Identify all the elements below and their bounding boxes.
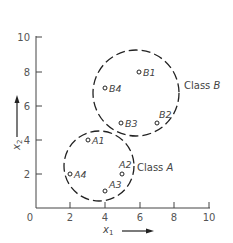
y-tick-label: 4 [24, 135, 30, 146]
point-a1-label: A1 [91, 135, 105, 146]
point-a4-label: A4 [73, 169, 87, 180]
x-tick-label: 2 [67, 212, 73, 223]
class-b-label: Class B [184, 80, 221, 91]
x-axis-label: x1 [102, 224, 113, 237]
y-tick-label: 8 [24, 67, 30, 78]
x-tick-label: 4 [102, 212, 108, 223]
point-a3-marker [103, 189, 107, 193]
point-a4-marker [68, 172, 72, 176]
y-tick-label: 2 [24, 169, 30, 180]
point-a3-label: A3 [108, 179, 122, 190]
x-tick-label: 0 [27, 212, 33, 223]
x-tick-label: 6 [137, 212, 143, 223]
class-scatter-diagram: 10 8 6 4 2 0 2 4 6 8 10 x1 x2 Class A Cl… [0, 0, 233, 243]
class-a-label: Class A [137, 162, 174, 173]
x-axis-arrow-icon [122, 229, 154, 234]
y-axis-arrow-icon [15, 95, 20, 137]
point-b1-marker [137, 70, 141, 74]
point-b2-label: B2 [159, 109, 172, 120]
point-a2-marker [120, 172, 124, 176]
y-tick-label: 6 [24, 101, 30, 112]
point-b3-label: B3 [125, 118, 138, 129]
point-b3-marker [119, 121, 123, 125]
y-axis-label: x2 [11, 140, 24, 151]
point-a2-label: A2 [118, 159, 132, 170]
point-b2-marker [155, 121, 159, 125]
x-tick-label: 8 [171, 212, 177, 223]
x-tick-label: 10 [203, 212, 216, 223]
point-b4-label: B4 [109, 83, 122, 94]
y-tick-label: 10 [17, 32, 30, 43]
point-a1-marker [86, 138, 90, 142]
point-b1-label: B1 [143, 67, 156, 78]
point-b4-marker [103, 86, 107, 90]
